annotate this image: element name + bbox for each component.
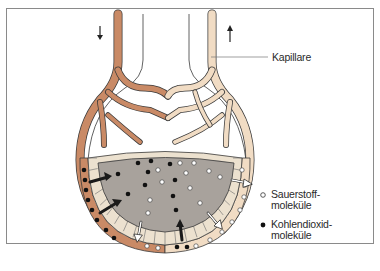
oxygen-legend-icon xyxy=(261,193,266,198)
co2-molecule xyxy=(95,218,100,223)
capillary-label: Kapillare xyxy=(272,51,311,63)
oxygen-molecule xyxy=(238,208,242,212)
co2-molecule xyxy=(90,208,95,213)
co2-molecule xyxy=(86,198,91,203)
co2-molecule xyxy=(82,168,87,173)
co2-molecule xyxy=(112,236,117,241)
oxygen-molecule xyxy=(145,244,149,248)
co2-molecule xyxy=(126,192,131,197)
co2-molecule xyxy=(143,183,148,188)
oxygen-molecule xyxy=(242,195,246,199)
oxygen-molecule xyxy=(156,168,160,172)
flow-arrow-up-icon xyxy=(227,25,233,42)
oxygen-molecule xyxy=(194,244,198,248)
oxygen-molecule xyxy=(198,201,202,205)
co2-molecule xyxy=(174,208,179,213)
oxygen-molecule xyxy=(156,246,160,250)
oxygen-molecule xyxy=(160,180,164,184)
flow-arrow-down-icon xyxy=(97,26,103,40)
co2-molecule xyxy=(149,159,154,164)
oxygen-molecule xyxy=(207,169,211,173)
co2-molecule xyxy=(136,161,141,166)
oxygen-molecule xyxy=(192,161,196,165)
oxygen-molecule xyxy=(188,186,192,190)
oxygen-label-line2: moleküle xyxy=(271,199,311,211)
co2-molecule xyxy=(146,170,151,175)
co2-molecule xyxy=(185,245,190,250)
co2-molecule xyxy=(171,194,176,199)
oxygen-molecule xyxy=(240,168,244,172)
co2-molecule xyxy=(168,162,173,167)
oxygen-molecule xyxy=(178,161,182,165)
oxygen-molecule xyxy=(220,230,224,234)
co2-molecule xyxy=(173,178,178,183)
co2-molecule xyxy=(175,245,180,250)
co2-molecule xyxy=(84,188,89,193)
co2-molecule xyxy=(83,178,88,183)
oxygen-molecule xyxy=(146,211,150,215)
oxygen-molecule xyxy=(230,220,234,224)
co2-molecule xyxy=(104,228,109,233)
oxygen-molecule xyxy=(208,238,212,242)
co2-molecule xyxy=(116,172,121,177)
oxygen-molecule xyxy=(184,171,188,175)
oxygen-molecule xyxy=(218,175,222,179)
co2-label-line2: moleküle xyxy=(271,229,311,241)
alveolus-diagram xyxy=(0,0,380,271)
co2-legend-icon xyxy=(261,223,266,228)
oxygen-molecule xyxy=(148,198,152,202)
